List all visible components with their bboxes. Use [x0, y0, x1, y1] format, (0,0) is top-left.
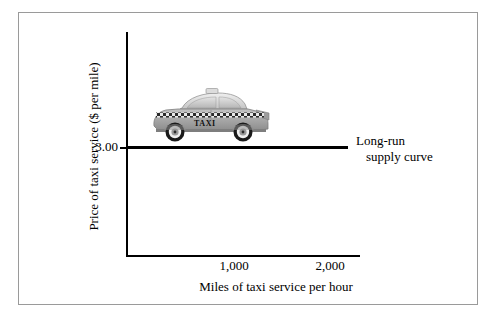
supply-curve-label-line2: supply curve	[356, 149, 476, 165]
x-axis-title: Miles of taxi service per hour	[126, 280, 426, 293]
y-tick-label-3: 3.00	[72, 140, 118, 153]
supply-curve-figure: Price of taxi service ($ per mile) 3.00 …	[0, 0, 494, 322]
x-tick-label-2000: 2,000	[300, 259, 360, 272]
taxi-illustration: TAXI	[148, 86, 272, 148]
supply-curve-label: Long-run supply curve	[356, 133, 476, 165]
taxi-door-text: TAXI	[194, 119, 216, 128]
supply-curve-label-line1: Long-run	[356, 133, 476, 149]
x-axis-line	[126, 255, 360, 257]
x-tick-label-1000: 1,000	[204, 259, 264, 272]
y-axis-line	[126, 32, 128, 256]
